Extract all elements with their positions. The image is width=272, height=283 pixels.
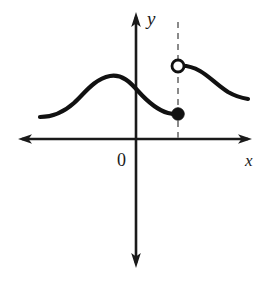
x-axis-label: x [244,151,253,170]
graph-figure: y x 0 [0,0,272,283]
origin-label: 0 [117,150,126,170]
graph-canvas: y x 0 [0,0,272,283]
filled-dot-point [172,108,184,120]
y-axis-label: y [145,8,156,29]
open-circle-point [172,60,184,72]
